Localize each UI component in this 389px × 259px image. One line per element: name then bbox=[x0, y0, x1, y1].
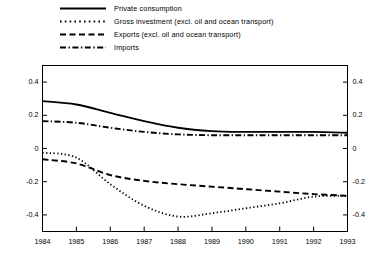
y-axis-tick-label-left: -0.2 bbox=[17, 178, 39, 186]
x-axis-tick-label: 1985 bbox=[61, 238, 91, 246]
y-axis-tick-label-left: 0 bbox=[17, 145, 39, 153]
x-axis-tick-label: 1993 bbox=[333, 238, 363, 246]
y-axis-tick-label-left: 0.4 bbox=[17, 78, 39, 86]
x-axis-tick-label: 1984 bbox=[28, 238, 58, 246]
y-axis-tick-label-left: 0.2 bbox=[17, 111, 39, 119]
chart-figure: Private consumption Gross investment (ex… bbox=[0, 0, 389, 259]
chart-plot-area: 0.40.20-0.2-0.40.40.20-0.2-0.41984198519… bbox=[0, 0, 389, 259]
x-axis-tick-label: 1987 bbox=[129, 238, 159, 246]
x-axis-tick-label: 1992 bbox=[299, 238, 329, 246]
x-axis-tick-label: 1991 bbox=[265, 238, 295, 246]
y-axis-tick-label-right: 0.4 bbox=[353, 78, 377, 86]
y-axis-tick-label-right: -0.4 bbox=[353, 211, 377, 219]
x-axis-tick-label: 1990 bbox=[231, 238, 261, 246]
y-axis-tick-label-right: 0 bbox=[353, 145, 377, 153]
x-axis-tick-label: 1989 bbox=[197, 238, 227, 246]
y-axis-tick-label-left: -0.4 bbox=[17, 211, 39, 219]
plot-svg bbox=[0, 0, 389, 259]
y-axis-tick-label-right: -0.2 bbox=[353, 178, 377, 186]
x-axis-tick-label: 1988 bbox=[163, 238, 193, 246]
series-line bbox=[43, 121, 348, 135]
series-line bbox=[43, 101, 348, 133]
x-axis-tick-label: 1986 bbox=[95, 238, 125, 246]
y-axis-tick-label-right: 0.2 bbox=[353, 111, 377, 119]
